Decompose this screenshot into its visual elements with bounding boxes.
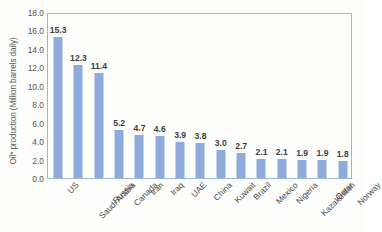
bar-value-label: 15.3 — [50, 25, 67, 35]
bar-value-label: 3.9 — [174, 130, 186, 140]
bar-slot: 2.1 — [272, 14, 292, 178]
bar[interactable] — [216, 150, 225, 178]
bar-slot: 1.8 — [333, 14, 353, 178]
bar-value-label: 4.6 — [154, 124, 166, 134]
bar-slot: 2.7 — [231, 14, 251, 178]
x-axis-category-label: US — [66, 180, 81, 195]
x-axis-category-label: Brazil — [251, 180, 273, 202]
bar-slot: 15.3 — [48, 14, 68, 178]
bar[interactable] — [318, 160, 327, 178]
x-axis-category-label: Mexico — [273, 180, 299, 206]
bar-value-label: 2.1 — [256, 147, 268, 157]
y-axis-tick-label: 4.0 — [20, 137, 44, 147]
x-axis-category-labels: USSaudi ArabiaRussiaCanadaIranIraqUAEChi… — [47, 180, 352, 232]
bar[interactable] — [135, 135, 144, 178]
y-axis-title: Oil* production (Million barrels daily) — [7, 6, 21, 196]
y-axis-tick-label: 16.0 — [20, 26, 44, 36]
bar-value-label: 4.7 — [134, 123, 146, 133]
x-axis-category-label: Norway — [355, 180, 382, 207]
bar-value-label: 1.9 — [296, 148, 308, 158]
bar[interactable] — [115, 130, 124, 178]
bar-value-label: 1.8 — [337, 149, 349, 159]
bar[interactable] — [338, 161, 347, 178]
bar-slot: 3.9 — [170, 14, 190, 178]
bar[interactable] — [257, 159, 266, 178]
bar-slot: 4.6 — [150, 14, 170, 178]
y-axis-tick-label: 8.0 — [20, 100, 44, 110]
x-axis-category-label: China — [211, 180, 234, 203]
bars-layer: 15.312.311.45.24.74.63.93.83.02.72.12.11… — [48, 14, 351, 178]
y-axis-tick-label: 14.0 — [20, 45, 44, 55]
y-axis-tick-label: 10.0 — [20, 82, 44, 92]
bar-slot: 2.1 — [251, 14, 271, 178]
y-axis-tick-label: 12.0 — [20, 63, 44, 73]
bar-slot: 3.8 — [190, 14, 210, 178]
bar-value-label: 3.8 — [195, 131, 207, 141]
y-axis-tick-label: 6.0 — [20, 119, 44, 129]
bar-value-label: 1.9 — [317, 148, 329, 158]
bar-slot: 11.4 — [89, 14, 109, 178]
plot-area: 15.312.311.45.24.74.63.93.83.02.72.12.11… — [47, 13, 352, 179]
bar-value-label: 2.7 — [235, 141, 247, 151]
bar[interactable] — [155, 136, 164, 178]
x-axis-category-label: Iraq — [168, 180, 185, 197]
bar[interactable] — [196, 143, 205, 178]
y-axis-tick-label: 0.0 — [20, 174, 44, 184]
bar[interactable] — [54, 37, 63, 178]
y-axis-tick-label: 2.0 — [20, 156, 44, 166]
bar-value-label: 3.0 — [215, 138, 227, 148]
bar-slot: 12.3 — [68, 14, 88, 178]
bar-slot: 5.2 — [109, 14, 129, 178]
bar-value-label: 12.3 — [70, 53, 87, 63]
bar[interactable] — [176, 142, 185, 178]
bar-value-label: 5.2 — [113, 118, 125, 128]
bar-slot: 1.9 — [292, 14, 312, 178]
bar[interactable] — [94, 73, 103, 178]
bar[interactable] — [74, 65, 83, 178]
y-axis-tick-label: 18.0 — [20, 8, 44, 18]
bar[interactable] — [237, 153, 246, 178]
y-axis-tick-labels: 0.02.04.06.08.010.012.014.016.018.0 — [20, 13, 44, 179]
bar-slot: 1.9 — [312, 14, 332, 178]
bar-value-label: 2.1 — [276, 147, 288, 157]
bar-slot: 3.0 — [211, 14, 231, 178]
bar[interactable] — [298, 160, 307, 178]
x-axis-category-label: UAE — [189, 180, 208, 199]
bar-slot: 4.7 — [129, 14, 149, 178]
bar[interactable] — [277, 159, 286, 178]
bar-value-label: 11.4 — [91, 61, 107, 71]
